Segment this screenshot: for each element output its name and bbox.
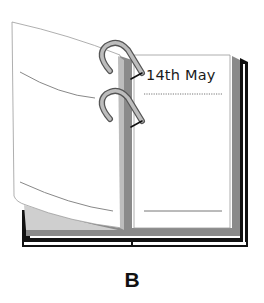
calendar-illustration (0, 0, 264, 260)
figure-caption: B (0, 268, 264, 292)
turning-page (12, 22, 124, 230)
calendar-date-label: 14th May (146, 67, 216, 83)
